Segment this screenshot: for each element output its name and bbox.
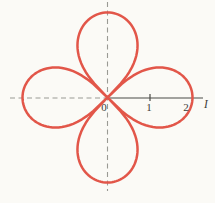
tick-1-label: 1 <box>146 101 152 113</box>
plot-canvas: 0 1 2 I <box>0 0 215 203</box>
polar-axis-label: I <box>203 98 209 110</box>
tick-2-label: 2 <box>183 101 189 113</box>
origin-label: 0 <box>101 101 107 113</box>
rose-plot-figure: 0 1 2 I <box>0 0 215 203</box>
